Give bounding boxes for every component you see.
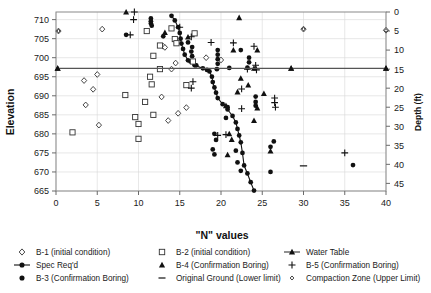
legend-item-b-5-confirmation-boring[interactable]: B-5 (Confirmation Boring) [288, 261, 399, 270]
y-tick-label: 680 [34, 129, 49, 139]
data-point-marker [100, 26, 105, 32]
x-tick-label: 25 [257, 198, 267, 208]
data-point-marker [247, 60, 252, 65]
x-axis-title: "N" values [195, 229, 248, 241]
legend-label: B-5 (Confirmation Boring) [306, 261, 399, 270]
data-point-marker [149, 82, 154, 87]
data-point-marker [177, 31, 182, 36]
data-point-marker [235, 160, 240, 165]
legend-label: B-1 (initial condition) [36, 248, 110, 257]
y-tick-label: 690 [34, 91, 49, 101]
data-point-marker [208, 39, 215, 46]
y-tick-label: 710 [34, 15, 49, 25]
legend-item-water-table[interactable]: Water Table [284, 248, 350, 257]
data-point-marker [147, 74, 152, 79]
legend-item-b-4-confirmation-boring[interactable]: B-4 (Confirmation Boring) [159, 261, 269, 270]
data-point-marker [229, 136, 235, 142]
data-point-marker [271, 99, 278, 106]
series-b-2-initial-condition [70, 26, 197, 142]
data-point-marker [341, 150, 348, 157]
x-tick-label: 15 [175, 198, 185, 208]
legend-label: B-2 (initial condition) [176, 248, 250, 257]
data-point-marker [166, 118, 171, 124]
x-tick-label: 5 [95, 198, 100, 208]
data-point-marker [226, 131, 232, 137]
data-point-marker [133, 115, 138, 120]
data-point-marker [210, 74, 215, 79]
data-point-marker [261, 90, 267, 96]
data-point-marker [186, 40, 191, 45]
data-point-marker [127, 31, 134, 38]
legend-item-b-3-confirmation-boring[interactable]: B-3 (Confirmation Boring) [19, 274, 129, 283]
data-point-marker [233, 120, 238, 125]
legend-item-original-ground-lower-limit[interactable]: Original Ground (Lower limit) [158, 274, 280, 283]
data-point-marker [238, 140, 243, 145]
y-tick-label: 670 [34, 167, 49, 177]
legend-item-b-2-initial-condition[interactable]: B-2 (initial condition) [159, 248, 250, 257]
y2-tick-label: 20 [394, 84, 404, 94]
data-point-marker [169, 26, 174, 31]
data-point-marker [192, 31, 197, 36]
legend-label: Water Table [306, 248, 350, 257]
legend-label: Original Ground (Lower limit) [176, 274, 281, 283]
data-point-marker [238, 48, 243, 53]
legend-marker [290, 276, 294, 280]
y-tick-label: 705 [34, 34, 49, 44]
legend-label: B-3 (Confirmation Boring) [36, 274, 129, 283]
data-point-marker [182, 52, 187, 57]
legend-marker [159, 249, 164, 254]
axis-titles-group: Elevation "N" values Depth (ft) [4, 89, 423, 241]
data-point-marker [224, 116, 229, 121]
data-point-marker [172, 18, 177, 23]
y-tick-label: 675 [34, 148, 49, 158]
data-point-marker [157, 67, 162, 72]
data-point-marker [189, 49, 194, 54]
legend-marker [19, 249, 25, 255]
data-point-marker [215, 61, 220, 66]
data-point-marker [254, 47, 260, 53]
data-point-marker [245, 171, 250, 176]
data-point-marker [238, 168, 243, 173]
legend-item-spec-req-d[interactable]: Spec Req'd [14, 261, 79, 270]
data-point-marker [83, 102, 88, 108]
data-point-marker [123, 92, 128, 97]
legend: B-1 (initial condition)B-2 (initial cond… [14, 248, 420, 283]
data-point-marker [184, 83, 189, 88]
tick-labels-group: 0510152025303540665670675680685690695700… [34, 7, 404, 208]
data-point-marker [271, 139, 276, 144]
legend-item-compaction-zone-upper-limit[interactable]: Compaction Zone (Upper Limit) [290, 274, 420, 283]
series-group [55, 9, 389, 193]
data-point-marker [169, 66, 174, 72]
y2-tick-label: 0 [394, 7, 399, 17]
legend-label: Compaction Zone (Upper Limit) [306, 274, 420, 283]
x-tick-label: 30 [298, 198, 308, 208]
data-point-marker [151, 112, 156, 117]
series-water-table [55, 65, 389, 71]
data-point-marker [204, 55, 209, 61]
data-point-marker [210, 147, 215, 152]
data-point-marker [248, 180, 253, 185]
legend-item-b-1-initial-condition[interactable]: B-1 (initial condition) [19, 248, 110, 257]
y-tick-label: 700 [34, 53, 49, 63]
data-point-marker [151, 53, 156, 58]
x-tick-label: 35 [340, 198, 350, 208]
data-point-marker [238, 86, 245, 93]
y2-tick-label: 35 [394, 141, 404, 151]
data-point-marker [214, 90, 219, 95]
y-axis-title: Elevation [4, 89, 16, 136]
series-b-1-initial-condition [56, 26, 389, 128]
data-point-marker [236, 15, 242, 21]
y-tick-label: 685 [34, 110, 49, 120]
data-point-marker [143, 99, 148, 104]
x-tick-label: 0 [53, 198, 58, 208]
data-point-marker [251, 43, 258, 50]
x-tick-label: 20 [216, 198, 226, 208]
data-point-marker [351, 163, 356, 168]
data-point-marker [242, 163, 247, 168]
data-point-marker [190, 78, 197, 85]
legend-marker [19, 262, 24, 267]
data-point-marker [144, 28, 149, 33]
data-point-marker [190, 59, 195, 64]
data-point-marker [238, 75, 244, 81]
data-point-marker [184, 105, 189, 111]
